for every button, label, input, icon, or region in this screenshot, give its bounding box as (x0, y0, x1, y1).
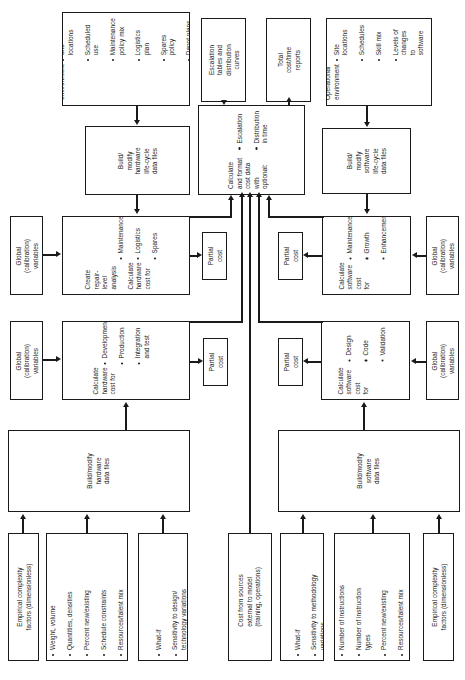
node-partial-cost-1: Partial cost (202, 232, 227, 280)
arrowhead (239, 192, 245, 197)
node-title: Build/modify hardware data files (86, 430, 111, 512)
node-title: Partial cost (282, 338, 299, 386)
node-partial-cost-3: Partial cost (203, 338, 228, 386)
connector-calcswdev-to-calcformat-h (258, 321, 323, 323)
connector-calcswdev-to-calcformat-v (258, 197, 260, 321)
node-calculate-software-cost-maintenance: Calculate software cost for Maintenance … (322, 216, 411, 295)
arrowhead (364, 209, 370, 214)
bullet: Maintenance (345, 216, 353, 259)
bullet: Schedule constraints (100, 584, 108, 656)
node-empirical-complexity-factors-hardware: Empirical complexity factors (dimensionl… (8, 533, 39, 661)
bullet: Levels of changes to software (392, 24, 426, 61)
connector-calchw-to-partial3 (190, 361, 198, 363)
connector-repair-to-calcformat-h (190, 216, 232, 218)
node-escalation-tables: Escalation tables and distribution curve… (201, 18, 246, 102)
node-global-calibration-variables-3: Global (calibration) variables (10, 321, 43, 400)
node-title: Calculate hardware cost for (92, 367, 117, 394)
bullet: Schedules (358, 24, 366, 61)
node-title: Total cost/time reports (276, 22, 301, 98)
bullet: Spares (151, 216, 159, 259)
node-global-calibration-variables-1: Global (calibration) variables (10, 216, 43, 295)
arrowhead (134, 120, 140, 125)
bullet: Validation (378, 327, 386, 361)
connector-globals1-to-repair (43, 254, 56, 256)
node-bullets: Maintenance Growth Enhancement (337, 216, 396, 259)
node-global-calibration-variables-4: Global (calibration) variables (426, 321, 459, 400)
arrowhead (247, 192, 253, 197)
connector-calchw-to-calcformat-v (241, 197, 243, 321)
bullet: Skill mix (375, 24, 383, 61)
connector-repair-to-partial1 (190, 255, 197, 257)
bullet: What-if (294, 574, 302, 656)
node-title: Calculate software cost for (336, 364, 370, 394)
connector-calcsw-to-partial2 (308, 255, 322, 257)
bullet: Escalation (235, 111, 243, 150)
connector-globals2-to-calcsw (417, 255, 426, 257)
node-title: Create repair-level analysis Calculate h… (84, 262, 152, 289)
node-global-calibration-variables-2: Global (calibration) variables (426, 216, 459, 295)
connector-extcost-to-calcformat-v (249, 197, 251, 533)
arrowhead (160, 514, 166, 519)
connector-buildswfiles-to-calcswdev (363, 407, 365, 430)
node-title: Build/ modify hardware life-cycle data f… (116, 131, 158, 190)
arrowhead (436, 514, 442, 519)
node-calculate-and-format-cost-data: Calculate and format cost data with opti… (198, 105, 305, 195)
node-cost-from-external-sources: Cost from sources external to model (tra… (228, 533, 272, 661)
arrowhead (370, 514, 376, 519)
flowchart-canvas: Operational environment Site locations S… (0, 0, 465, 680)
node-title: Partial cost (282, 232, 299, 280)
bullet: Production (118, 321, 126, 364)
bullet: Sensitivity to design/ technology variat… (171, 589, 188, 656)
node-title: Global (calibration) variables (430, 219, 455, 292)
bullet: Code (361, 327, 369, 361)
node-build-modify-hardware-data-files: Build/modify hardware data files (8, 430, 190, 512)
node-title: Empirical complexity factors (dimensionl… (430, 537, 447, 657)
bullet: Development (101, 321, 109, 364)
node-title: Operational environment (62, 64, 67, 100)
bullet: Sensitivity to methodology variations (310, 574, 324, 656)
arrowhead (364, 122, 370, 127)
node-bullets: Maintenance Logistics Spares (108, 216, 167, 259)
node-operational-environment-hardware: Operational environment Site locations S… (62, 12, 190, 106)
connector-opnenv-sw-to-build (366, 106, 368, 123)
connector-empcxsw-to-buildswfiles (438, 519, 440, 533)
arrowhead (197, 252, 202, 258)
node-build-modify-hardware-lifecycle-files: Build/ modify hardware life-cycle data f… (85, 126, 190, 195)
arrowhead (84, 514, 90, 519)
bullet: Site locations (333, 24, 350, 61)
bullet: Enhancement (379, 216, 387, 259)
arrowhead (412, 252, 417, 258)
node-calculate-software-cost-development: Calculate software cost for Design Code … (321, 321, 410, 400)
connector-calcswdev-to-partial4 (308, 361, 321, 363)
bullet: Spares policy (160, 18, 177, 61)
connector-globals4-to-calcswdev (416, 361, 426, 363)
bullet: Maintenance policy mix (109, 18, 126, 61)
arrowhead (56, 356, 61, 362)
bullet: Logistics (134, 216, 142, 259)
arrowhead (198, 358, 203, 364)
arrowhead (56, 251, 61, 257)
connector-calcsw-to-calcformat-v (268, 200, 270, 216)
node-bullets: Escalation Distribution in time (226, 111, 277, 150)
arrowhead (20, 514, 26, 519)
connector-opnenv-hw-to-build (136, 106, 138, 121)
node-title: Global (calibration) variables (14, 219, 39, 292)
node-iterative-analysis-hardware: Iterative analysis What-if Sensitivity t… (138, 533, 188, 661)
node-title: Cost from sources external to model (tra… (237, 567, 262, 627)
node-empirical-complexity-factors-software: Empirical complexity factors (dimensionl… (423, 533, 454, 661)
node-software-characteristics: Software characteristics Number of instr… (334, 533, 410, 661)
node-partial-cost-4: Partial cost (278, 338, 303, 386)
connector-repair-to-calcformat-v (230, 200, 232, 216)
connector-calchw-to-calcformat-h (190, 321, 243, 323)
bullet: Quantities, densities (66, 584, 74, 656)
bullet: Integration and test (134, 321, 151, 364)
arrowhead (134, 209, 140, 214)
arrowhead (303, 252, 308, 258)
node-title: Escalation tables and distribution curve… (207, 22, 241, 98)
connector-empcxhw-to-buildhwfiles (22, 519, 24, 533)
arrowhead (266, 195, 272, 200)
connector-calcformat-to-reports (288, 102, 290, 106)
bullet: Scheduled use (84, 18, 101, 61)
arrowhead (123, 402, 129, 407)
bullet: Depot plans (185, 18, 190, 61)
